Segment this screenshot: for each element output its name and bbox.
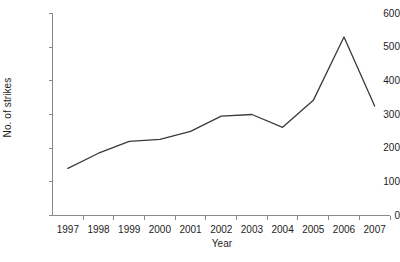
plot-area	[0, 0, 400, 262]
line-chart: No. of strikes Year 0100200300400500600 …	[0, 0, 400, 262]
data-series-line	[68, 37, 375, 168]
